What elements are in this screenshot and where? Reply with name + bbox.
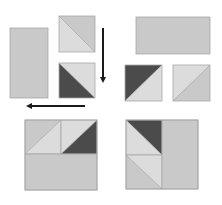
- block-rectangle: [25, 154, 97, 190]
- block-right: [126, 120, 198, 189]
- quilt-diagram: [0, 0, 222, 205]
- wide-rectangle: [136, 17, 210, 54]
- pieces-layer: [10, 16, 210, 101]
- block-hst: [61, 120, 97, 154]
- assembled-blocks-layer: [25, 120, 198, 190]
- hst-right-b: [173, 65, 210, 101]
- block-hst: [126, 120, 162, 155]
- hst-right-a: [125, 65, 162, 101]
- hst-bottom: [59, 63, 95, 98]
- block-rectangle: [162, 120, 198, 189]
- block-hst: [126, 155, 162, 189]
- hst-top: [59, 16, 95, 52]
- block-hst: [25, 120, 61, 154]
- block-left: [25, 120, 97, 190]
- tall-rectangle: [10, 28, 48, 98]
